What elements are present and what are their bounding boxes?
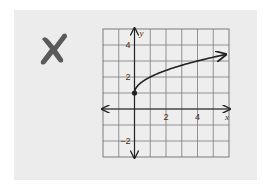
y-axis-label: y	[139, 28, 144, 38]
start-point	[132, 90, 137, 95]
graph: 2442−2xy	[0, 0, 271, 190]
x-tick-label: 4	[195, 112, 200, 122]
y-tick-label: 2	[125, 72, 130, 82]
x-axis-label: x	[224, 112, 229, 122]
x-tick-label: 2	[163, 112, 168, 122]
y-tick-label: 4	[125, 40, 130, 50]
y-tick-label: −2	[120, 136, 130, 146]
